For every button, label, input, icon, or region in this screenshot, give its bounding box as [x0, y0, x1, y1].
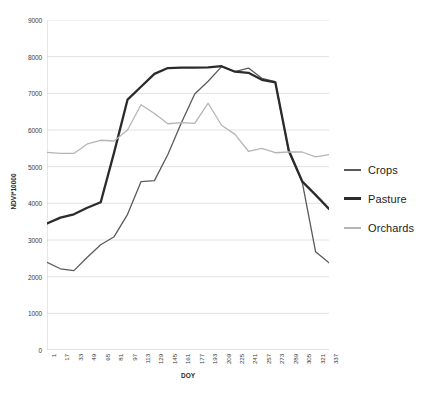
x-tick-label: 337 — [332, 354, 339, 364]
legend-line-icon — [344, 169, 361, 171]
x-tick-label: 17 — [63, 354, 70, 361]
x-tick-label: 241 — [251, 354, 258, 364]
y-tick-label: 4000 — [28, 200, 42, 207]
y-tick-label: 6000 — [28, 127, 42, 134]
y-tick-label: 3000 — [28, 237, 42, 244]
x-tick-label: 209 — [225, 354, 232, 364]
plot-area — [47, 20, 329, 350]
y-axis: 0100020003000400050006000700080009000 — [0, 0, 47, 394]
x-tick-label: 289 — [292, 354, 299, 364]
x-tick-label: 113 — [144, 354, 151, 364]
y-tick-label: 5000 — [28, 163, 42, 170]
x-tick-label: 161 — [184, 354, 191, 364]
legend-label: Crops — [368, 164, 398, 176]
y-tick-label: 8000 — [28, 53, 42, 60]
legend-entry-pasture[interactable]: Pasture — [344, 184, 432, 213]
y-tick-label: 0 — [38, 347, 42, 354]
x-axis: 1173349658197113129145161177193209225241… — [47, 352, 329, 386]
legend-line-icon — [344, 227, 361, 229]
axis-lines — [47, 20, 329, 350]
y-tick-label: 7000 — [28, 90, 42, 97]
x-tick-label: 1 — [50, 354, 57, 357]
x-tick-label: 81 — [117, 354, 124, 361]
y-tick-label: 9000 — [28, 17, 42, 24]
chart-legend: CropsPastureOrchards — [344, 155, 432, 242]
plot-svg — [47, 20, 329, 350]
x-tick-label: 305 — [305, 354, 312, 364]
x-tick-label: 129 — [157, 354, 164, 364]
y-tick-label: 1000 — [28, 310, 42, 317]
legend-label: Orchards — [368, 222, 414, 234]
x-tick-label: 97 — [131, 354, 138, 361]
series-line-pasture — [47, 66, 329, 223]
x-tick-label: 49 — [90, 354, 97, 361]
x-tick-label: 193 — [211, 354, 218, 364]
legend-entry-orchards[interactable]: Orchards — [344, 213, 432, 242]
y-axis-title: NDVI*10000 — [10, 157, 17, 227]
x-tick-label: 257 — [265, 354, 272, 364]
gridlines — [47, 20, 329, 350]
x-tick-label: 33 — [77, 354, 84, 361]
legend-label: Pasture — [368, 193, 407, 205]
x-tick-label: 321 — [319, 354, 326, 364]
legend-entry-crops[interactable]: Crops — [344, 155, 432, 184]
x-tick-label: 145 — [171, 354, 178, 364]
legend-line-icon — [344, 197, 361, 200]
ndvi-phenology-chart: 0100020003000400050006000700080009000 ND… — [0, 0, 432, 394]
x-tick-label: 177 — [198, 354, 205, 364]
y-tick-label: 2000 — [28, 273, 42, 280]
x-tick-label: 273 — [278, 354, 285, 364]
x-axis-title: DOY — [47, 372, 329, 379]
x-tick-label: 225 — [238, 354, 245, 364]
x-tick-label: 65 — [104, 354, 111, 361]
